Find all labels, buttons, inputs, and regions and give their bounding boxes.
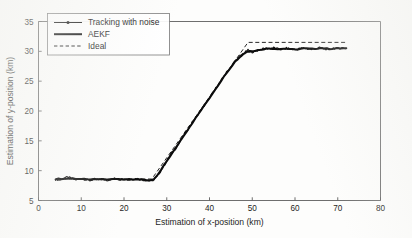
y-tick-label: 25 (24, 77, 34, 86)
x-tick-label: 30 (162, 204, 172, 213)
x-tick-label: 50 (248, 204, 258, 213)
legend: Tracking with noise AEKF Ideal (48, 14, 170, 56)
y-tick-label: 15 (24, 137, 34, 146)
x-axis-tick-labels: 01020304050607080 (36, 204, 385, 213)
x-axis-ticks (39, 197, 381, 200)
x-tick-label: 0 (36, 204, 41, 213)
y-tick-label: 35 (24, 18, 34, 27)
y-axis-ticks (39, 22, 42, 201)
chart-plot: 01020304050607080 5101520253035 Estimati… (0, 0, 412, 238)
y-axis-title: Estimation of y-position (km) (5, 57, 15, 166)
data-series-group (56, 42, 347, 181)
y-tick-label: 30 (24, 47, 34, 56)
x-tick-label: 80 (376, 204, 386, 213)
legend-label-aekf: AEKF (88, 29, 110, 39)
x-tick-label: 20 (119, 204, 129, 213)
legend-label-ideal: Ideal (88, 41, 106, 51)
x-tick-label: 10 (77, 204, 87, 213)
x-axis-title: Estimation of x-position (km) (155, 217, 264, 227)
series-tracking-with-noise-line (56, 47, 347, 181)
y-axis-tick-labels: 5101520253035 (24, 18, 34, 206)
y-tick-label: 20 (24, 107, 34, 116)
x-tick-label: 40 (205, 204, 215, 213)
x-tick-label: 70 (333, 204, 343, 213)
y-tick-label: 10 (24, 167, 34, 176)
series-aekf-line (56, 48, 347, 180)
legend-label-tracking-with-noise: Tracking with noise (88, 17, 160, 27)
y-tick-label: 5 (29, 197, 34, 206)
x-tick-label: 60 (290, 204, 300, 213)
legend-marker-dot-icon (67, 21, 70, 24)
figure-canvas: 01020304050607080 5101520253035 Estimati… (0, 0, 412, 238)
